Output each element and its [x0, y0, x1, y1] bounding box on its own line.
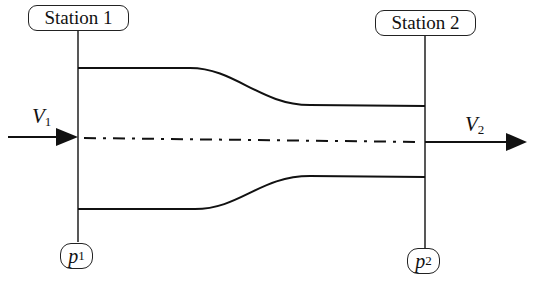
pressure-2-subscript: 2 [425, 253, 432, 269]
velocity-1-label: V1 [32, 106, 51, 128]
pressure-2-label: p2 [407, 248, 440, 274]
outlet-arrowhead-icon [506, 133, 527, 151]
pressure-2-symbol: p [415, 250, 425, 273]
station-1-text: Station 1 [44, 7, 112, 29]
station-1-label: Station 1 [28, 5, 129, 31]
velocity-1-subscript: 1 [45, 114, 52, 129]
station-2-text: Station 2 [391, 12, 459, 34]
pressure-1-label: p1 [60, 243, 93, 269]
pressure-1-symbol: p [68, 245, 78, 268]
lower-wall [78, 176, 425, 209]
pressure-1-subscript: 1 [78, 248, 85, 264]
velocity-2-symbol: V [465, 112, 478, 136]
upper-wall [78, 68, 425, 106]
duct-flow-diagram [0, 0, 533, 284]
velocity-2-label: V2 [465, 114, 484, 136]
centerline [84, 138, 420, 142]
velocity-1-symbol: V [32, 104, 45, 128]
velocity-2-subscript: 2 [478, 122, 485, 137]
station-2-label: Station 2 [375, 10, 476, 36]
inlet-arrowhead-icon [56, 128, 78, 146]
